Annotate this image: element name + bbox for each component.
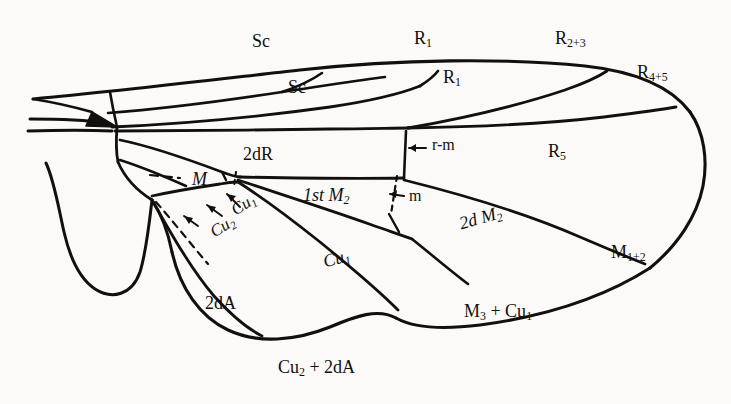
label-cu22da-second: 2dA xyxy=(324,357,355,377)
arrow-cu2 xyxy=(184,216,198,226)
label-sc-outer: Sc xyxy=(252,32,270,50)
label-r1-inner-sub: 1 xyxy=(455,75,461,89)
label-m3cu1-second-sub: 1 xyxy=(526,309,532,323)
label-r-m-crossvein: r-m xyxy=(432,137,455,153)
label-m-crossvein: m xyxy=(409,188,421,204)
vein-base-divider-1 xyxy=(116,127,118,162)
arrow-m xyxy=(390,190,404,198)
label-r1-inner-base: R xyxy=(443,67,455,87)
vein-r1 xyxy=(112,86,420,127)
vein-base-divider-2 xyxy=(118,162,152,200)
label-r45-base: R xyxy=(637,62,649,82)
arrow-cu1-left xyxy=(207,205,222,216)
label-r2-plus-3: R2+3 xyxy=(555,29,586,50)
vein-discal-lower xyxy=(240,177,404,178)
label-cu22da-first: Cu xyxy=(278,357,299,377)
label-m3cu1-second: Cu xyxy=(505,301,526,321)
wing-drawing xyxy=(0,0,731,404)
anal-fold-dashed xyxy=(156,202,208,264)
label-2dr-cell: 2dR xyxy=(243,145,273,163)
label-1st-m2-cell: 1st M2 xyxy=(303,186,349,207)
label-m3cu1-plus: + xyxy=(486,301,505,321)
vein-base-divider-3 xyxy=(110,92,117,127)
label-cu22da-plus: + xyxy=(305,357,324,377)
vein-m3-plus-cu1 xyxy=(412,239,468,284)
label-r45-sub: 4+5 xyxy=(649,70,668,84)
label-m3-plus-cu1: M3 + Cu1 xyxy=(464,302,532,323)
humeral-thickening xyxy=(86,112,117,127)
wing-venation-figure: Sc Sc R1 R1 R2+3 R4+5 R5 2dR r-m M 1st M… xyxy=(0,0,731,404)
vein-sc xyxy=(108,77,385,113)
crossvein-r-m xyxy=(404,131,406,178)
basal-margin-lower2 xyxy=(28,130,112,131)
wing-apex-margin xyxy=(650,112,705,268)
label-1stm2-base: 1st M xyxy=(303,185,344,205)
label-r5: R5 xyxy=(548,142,566,163)
label-r5-base: R xyxy=(548,141,560,161)
label-m1-plus-2: M1+2 xyxy=(611,243,646,264)
vein-first-m2-right xyxy=(389,214,399,232)
crossvein-m-short-dashed xyxy=(234,172,236,186)
alula-lobe xyxy=(46,163,152,295)
vein-2dm2-margin xyxy=(372,239,412,262)
label-sc-inner: Sc xyxy=(288,78,306,96)
label-r1-outer-base: R xyxy=(414,28,426,48)
label-r23-sub: 2+3 xyxy=(567,36,586,50)
label-m12-base: M xyxy=(611,242,627,262)
arrow-r-m xyxy=(409,144,426,152)
label-r1-outer-sub: 1 xyxy=(426,36,432,50)
vein-r-base xyxy=(115,128,408,131)
label-r1-inner: R1 xyxy=(443,68,461,89)
label-m-cell: M xyxy=(192,170,207,188)
label-cu2-plus-2da: Cu2 + 2dA xyxy=(278,358,355,379)
label-r4-plus-5: R4+5 xyxy=(637,63,668,84)
label-m3cu1-first: M xyxy=(464,301,480,321)
vein-r1-to-costa xyxy=(420,71,438,86)
label-2da-cell: 2dA xyxy=(205,294,236,312)
label-r5-sub: 5 xyxy=(560,149,566,163)
label-cu1-cell-base: Cu xyxy=(321,247,346,272)
label-m12-sub: 1+2 xyxy=(627,250,646,264)
costal-margin xyxy=(33,61,690,112)
vein-m1-plus-2 xyxy=(404,180,645,264)
label-r23-base: R xyxy=(555,28,567,48)
m-cell-dash xyxy=(150,175,180,178)
label-r1-outer: R1 xyxy=(414,29,432,50)
basal-margin-upper xyxy=(33,99,92,112)
label-1stm2-sub: 2 xyxy=(344,193,350,207)
vein-r4-plus-5 xyxy=(408,107,676,128)
